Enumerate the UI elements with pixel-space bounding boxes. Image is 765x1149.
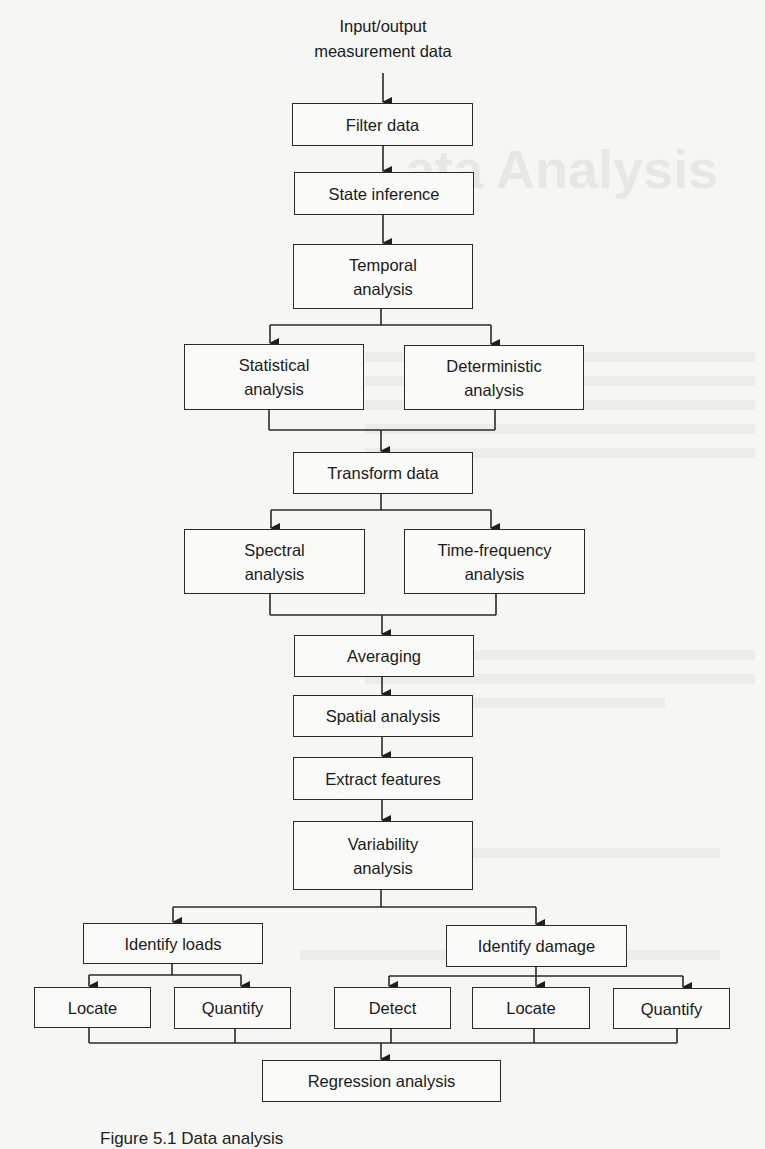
node-time-frequency-analysis: Time-frequency analysis: [404, 529, 585, 594]
node-state-inference: State inference: [294, 172, 474, 215]
node-deterministic-analysis: Deterministic analysis: [404, 345, 584, 410]
node-damage-quantify: Quantify: [613, 988, 730, 1029]
node-damage-locate: Locate: [472, 987, 590, 1029]
node-transform-data: Transform data: [293, 452, 473, 494]
input-label: Input/output measurement data: [233, 14, 533, 64]
node-statistical-analysis: Statistical analysis: [184, 344, 364, 410]
node-spatial-analysis: Spatial analysis: [293, 695, 473, 737]
node-damage-detect: Detect: [334, 987, 451, 1029]
node-identify-damage: Identify damage: [446, 925, 627, 967]
node-regression-analysis: Regression analysis: [262, 1060, 501, 1102]
node-variability-analysis: Variability analysis: [293, 821, 473, 890]
input-label-line-1: Input/output: [233, 14, 533, 39]
node-spectral-analysis: Spectral analysis: [184, 529, 365, 594]
node-loads-quantify: Quantify: [174, 987, 291, 1029]
node-filter-data: Filter data: [292, 103, 473, 146]
node-temporal-analysis: Temporal analysis: [293, 244, 473, 309]
input-label-line-2: measurement data: [233, 39, 533, 64]
node-extract-features: Extract features: [293, 757, 473, 800]
node-loads-locate: Locate: [34, 987, 151, 1028]
node-identify-loads: Identify loads: [83, 923, 263, 964]
node-averaging: Averaging: [294, 635, 474, 677]
figure-caption: Figure 5.1 Data analysis: [100, 1129, 283, 1149]
